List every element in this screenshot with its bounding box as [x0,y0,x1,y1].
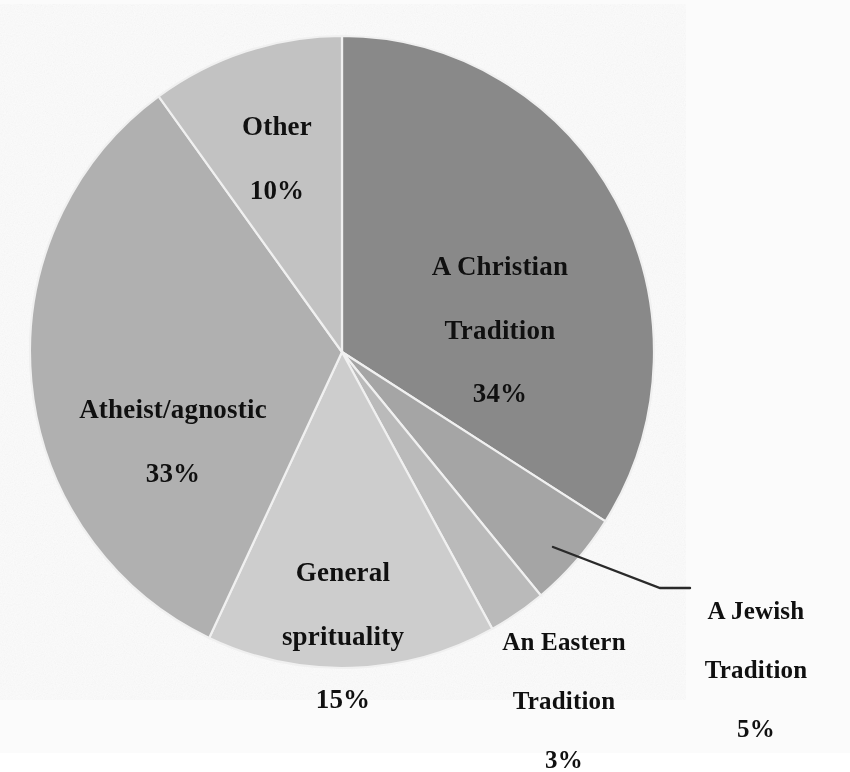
pie-label-line1: A Christian [395,251,605,283]
pie-label-value: 5% [666,714,846,744]
pie-label-an-eastern-tradition: An Eastern Tradition 3% [469,597,659,772]
pie-label-value: 3% [469,745,659,772]
pie-label-value: 33% [33,458,313,490]
pie-label-atheist-agnostic: Atheist/agnostic 33% [33,362,313,521]
pie-label-line2: Tradition [469,686,659,716]
pie-label-value: 15% [243,684,443,716]
pie-label-line1: Other [187,111,367,143]
pie-label-line2: Tradition [666,655,846,685]
pie-label-a-jewish-tradition: A Jewish Tradition 5% [666,566,846,772]
pie-label-line1: An Eastern [469,627,659,657]
pie-label-value: 34% [395,378,605,410]
pie-label-general-sprituality: General sprituality 15% [243,525,443,748]
pie-label-a-christian-tradition: A Christian Tradition 34% [395,219,605,442]
pie-label-line2: Tradition [395,315,605,347]
pie-label-line1: General [243,557,443,589]
pie-label-other: Other 10% [187,79,367,238]
pie-label-value: 10% [187,175,367,207]
pie-label-line1: Atheist/agnostic [33,394,313,426]
pie-label-line2: sprituality [243,621,443,653]
pie-label-line1: A Jewish [666,596,846,626]
